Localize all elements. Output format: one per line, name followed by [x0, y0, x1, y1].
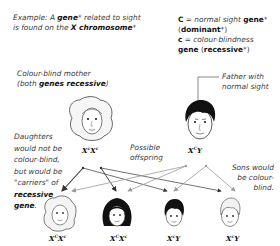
mother-face-icon [70, 97, 113, 141]
daughter-light-hair-icon [44, 196, 76, 231]
son-dark-hair-icon [165, 199, 184, 226]
father-face-icon [185, 100, 215, 139]
mother-allele-arrows [62, 167, 221, 191]
father-leader-line [198, 77, 219, 100]
son-light-hair-icon [221, 198, 240, 227]
inheritance-artwork [0, 0, 280, 246]
daughter-dark-hair-icon [103, 198, 132, 226]
